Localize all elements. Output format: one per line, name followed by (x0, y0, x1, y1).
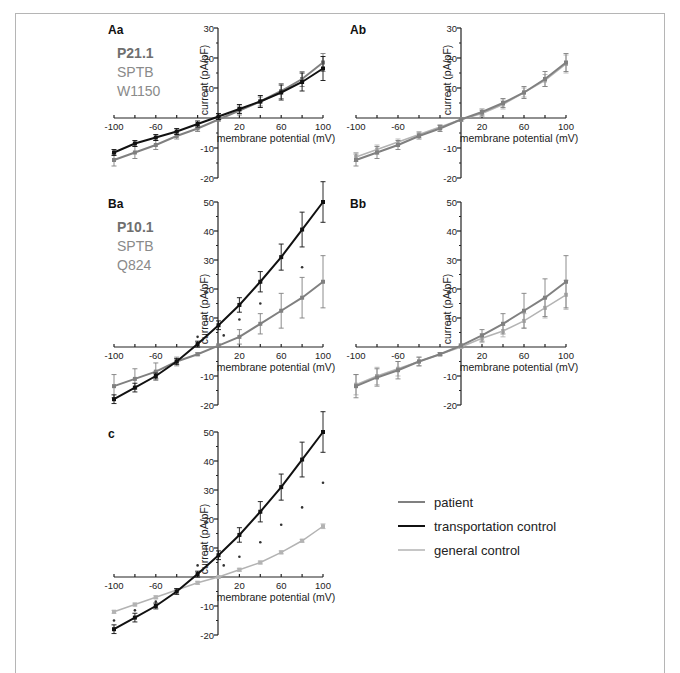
y-tick-label: -10 (200, 371, 214, 382)
panel-c: c-100-602060100-20-101020304050membrane … (104, 412, 335, 641)
data-point (279, 91, 283, 95)
data-point (417, 134, 421, 138)
data-point (300, 228, 304, 232)
panel-ba: BaP10.1SPTBQ824-100-602060100-20-1010203… (104, 182, 335, 411)
data-point (237, 568, 241, 572)
data-point (522, 91, 526, 95)
data-point (321, 430, 325, 434)
x-tick-label: 60 (276, 121, 287, 132)
sample-annotation: W1150 (117, 83, 161, 99)
data-point (480, 110, 484, 114)
y-tick-label: 30 (203, 485, 214, 496)
significance-asterisk (259, 541, 262, 544)
data-point (417, 360, 421, 364)
y-tick-label: -20 (200, 400, 214, 411)
significance-asterisk (280, 524, 283, 527)
y-tick-label: -20 (200, 173, 214, 184)
significance-asterisk (196, 564, 199, 567)
y-axis-title: current (pA/pF) (198, 45, 210, 116)
data-point (154, 374, 158, 378)
data-point (258, 322, 262, 326)
x-axis-title: membrane potential (mV) (217, 591, 335, 603)
data-point (217, 553, 221, 557)
legend-label-general: general control (434, 543, 520, 558)
data-point (112, 151, 116, 155)
y-tick-label: -20 (443, 173, 457, 184)
sample-annotation: SPTB (117, 238, 154, 254)
data-point (175, 360, 179, 364)
data-point (258, 510, 262, 514)
y-tick-label: -10 (443, 143, 457, 154)
x-tick-label: 100 (315, 580, 331, 591)
y-tick-label: -10 (200, 601, 214, 612)
x-tick-label: 100 (315, 350, 331, 361)
panel-ab: Ab-100-602060100-20-10102030membrane pot… (346, 23, 578, 184)
data-point (564, 280, 568, 284)
data-point (258, 561, 262, 565)
data-point (459, 118, 463, 122)
data-point (237, 107, 241, 111)
data-point (543, 77, 547, 81)
data-point (237, 335, 241, 339)
data-point (112, 397, 116, 401)
x-axis-title: membrane potential (mV) (217, 132, 335, 144)
data-point (321, 200, 325, 204)
data-point (112, 158, 116, 162)
legend-label-patient: patient (434, 495, 473, 510)
data-point (217, 115, 221, 119)
x-tick-label: -60 (149, 121, 163, 132)
x-tick-label: -60 (391, 350, 405, 361)
x-axis-title: membrane potential (mV) (460, 361, 578, 373)
data-point (354, 158, 358, 162)
significance-asterisk (134, 609, 137, 612)
x-tick-label: 100 (558, 350, 574, 361)
x-tick-label: 20 (477, 350, 488, 361)
x-tick-label: -60 (149, 580, 163, 591)
data-point (438, 127, 442, 131)
x-tick-label: 20 (477, 121, 488, 132)
data-point (133, 386, 137, 390)
significance-asterisk (259, 302, 262, 305)
sample-annotation: SPTB (117, 64, 154, 80)
data-point (217, 575, 221, 579)
data-point (300, 296, 304, 300)
x-tick-label: 20 (234, 580, 245, 591)
data-point (375, 375, 379, 379)
data-point (321, 524, 325, 528)
panel-label: Bb (350, 197, 366, 211)
data-point (480, 333, 484, 337)
panel-label: c (108, 427, 115, 441)
x-tick-label: -100 (346, 121, 365, 132)
data-point (396, 368, 400, 372)
significance-asterisk (301, 506, 304, 509)
data-point (300, 458, 304, 462)
significance-asterisk (238, 555, 241, 558)
data-point (175, 590, 179, 594)
significance-asterisk (322, 481, 325, 484)
y-tick-label: 50 (203, 197, 214, 208)
x-tick-label: -100 (346, 350, 365, 361)
data-point (154, 143, 158, 147)
x-tick-label: 20 (234, 350, 245, 361)
x-tick-label: 20 (234, 121, 245, 132)
y-tick-label: 50 (203, 427, 214, 438)
y-tick-label: 40 (203, 456, 214, 467)
y-tick-label: 30 (203, 23, 214, 34)
x-tick-label: -100 (104, 350, 123, 361)
data-point (133, 616, 137, 620)
x-tick-label: 60 (519, 350, 530, 361)
data-point (217, 323, 221, 327)
panel-aa: AaP21.1SPTBW1150-100-602060100-20-101020… (104, 23, 335, 184)
panel-label: Aa (108, 23, 124, 37)
data-point (321, 280, 325, 284)
data-point (279, 485, 283, 489)
x-tick-label: -100 (104, 121, 123, 132)
data-point (112, 384, 116, 388)
data-point (154, 595, 158, 599)
data-point (522, 309, 526, 313)
y-axis-title: current (pA/pF) (441, 45, 453, 116)
x-tick-label: 100 (558, 121, 574, 132)
data-point (321, 67, 325, 71)
sample-annotation: Q824 (117, 257, 151, 273)
